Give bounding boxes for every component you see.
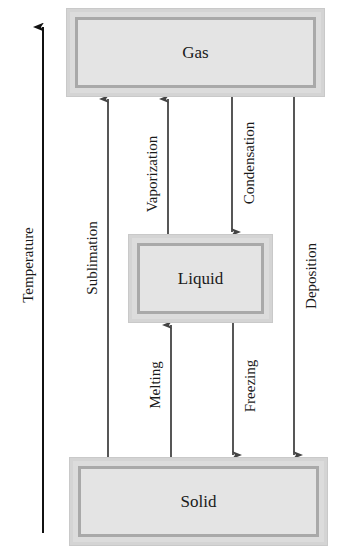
temperature-label: Temperature — [20, 227, 37, 303]
gas-box: Gas — [67, 9, 324, 96]
solid-label: Solid — [181, 492, 217, 512]
condensation-label: Condensation — [241, 122, 258, 205]
solid-box: Solid — [70, 458, 327, 545]
deposition-label: Deposition — [303, 243, 320, 309]
liquid-label: Liquid — [178, 269, 223, 289]
sublimation-label: Sublimation — [84, 221, 101, 294]
gas-label: Gas — [182, 43, 208, 63]
liquid-box: Liquid — [129, 235, 272, 322]
freezing-label: Freezing — [242, 360, 259, 412]
vaporization-label: Vaporization — [144, 136, 161, 213]
melting-label: Melting — [147, 361, 164, 409]
